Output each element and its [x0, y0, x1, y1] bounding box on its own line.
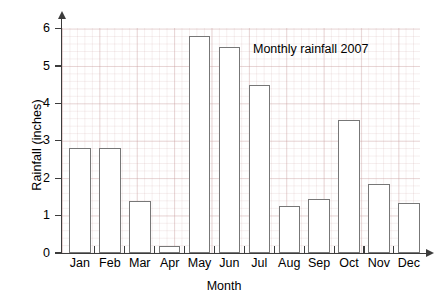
rainfall-bar-chart: Rainfall (inches) 0123456 JanFebMarAprMa… [0, 0, 448, 303]
y-tick-label-4: 4 [26, 97, 50, 110]
x-tick-label-nov: Nov [364, 257, 394, 270]
x-tick-label-apr: Apr [155, 257, 185, 270]
bar-oct [338, 120, 360, 253]
x-tick-label-jan: Jan [65, 257, 95, 270]
x-tick-label-aug: Aug [274, 257, 304, 270]
x-tick-label-sep: Sep [304, 257, 334, 270]
x-tick-9 [334, 246, 335, 253]
y-tick-label-3: 3 [26, 134, 50, 147]
y-tick-label-0: 0 [26, 247, 50, 260]
y-tick-label-1: 1 [26, 209, 50, 222]
x-tick-5 [214, 246, 215, 253]
y-tick-label-2: 2 [26, 172, 50, 185]
y-axis-arrow-icon [58, 11, 66, 19]
bar-jun [219, 47, 241, 253]
chart-title: Monthly rainfall 2007 [253, 42, 368, 56]
y-tick-label-6: 6 [26, 22, 50, 35]
bar-sep [308, 199, 330, 253]
x-tick-label-feb: Feb [95, 257, 125, 270]
bar-jan [69, 148, 91, 253]
x-tick-1 [94, 246, 95, 253]
x-tick-8 [304, 246, 305, 253]
y-axis-line [61, 18, 62, 253]
x-tick-3 [154, 246, 155, 253]
bar-may [189, 36, 211, 253]
y-tick-1 [55, 215, 62, 216]
y-tick-label-5: 5 [26, 60, 50, 73]
y-tick-0 [55, 252, 62, 253]
x-tick-label-jun: Jun [215, 257, 245, 270]
x-tick-label-may: May [185, 257, 215, 270]
x-tick-4 [184, 246, 185, 253]
x-tick-2 [124, 246, 125, 253]
bar-jul [249, 85, 271, 253]
x-tick-6 [244, 246, 245, 253]
bar-feb [99, 148, 121, 253]
y-tick-6 [55, 28, 62, 29]
bar-aug [279, 206, 301, 253]
y-tick-2 [55, 178, 62, 179]
x-axis-title: Month [0, 279, 448, 293]
x-tick-label-oct: Oct [334, 257, 364, 270]
x-tick-label-jul: Jul [244, 257, 274, 270]
bar-mar [129, 201, 151, 253]
x-axis-arrow-icon [426, 249, 434, 257]
x-tick-11 [393, 246, 394, 253]
bar-nov [368, 184, 390, 253]
y-tick-5 [55, 65, 62, 66]
y-tick-3 [55, 140, 62, 141]
x-tick-label-dec: Dec [394, 257, 424, 270]
x-tick-label-mar: Mar [125, 257, 155, 270]
x-tick-10 [363, 246, 364, 253]
x-tick-7 [274, 246, 275, 253]
y-tick-4 [55, 103, 62, 104]
bar-dec [398, 203, 420, 253]
plot-area [62, 28, 420, 253]
